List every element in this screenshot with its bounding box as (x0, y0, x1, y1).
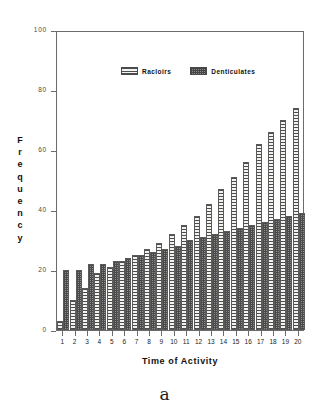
x-axis-tick-mark (161, 331, 162, 336)
x-axis-tick-mark (261, 331, 262, 336)
x-axis-tick-mark (99, 331, 100, 336)
x-axis-tick-mark (174, 331, 175, 336)
bar-group (218, 32, 230, 330)
x-axis-tick-mark (112, 331, 113, 336)
x-axis-tick-mark (298, 331, 299, 336)
x-axis-tick-mark (62, 331, 63, 336)
bar-group (268, 32, 280, 330)
bar-denticulates (113, 261, 119, 330)
y-axis-tick-label: 100 (34, 26, 47, 33)
bar-denticulates (175, 246, 181, 330)
x-axis-tick-mark (285, 331, 286, 336)
bar-denticulates (76, 270, 82, 330)
y-axis-tick-label: 60 (38, 146, 47, 153)
x-axis-tick-mark (211, 331, 212, 336)
x-axis-tick-label: 20 (289, 338, 307, 345)
bar-denticulates (63, 270, 69, 330)
bar-group (156, 32, 168, 330)
bar-group (169, 32, 181, 330)
bar-group (94, 32, 106, 330)
bar-denticulates (200, 237, 206, 330)
bar-group (82, 32, 94, 330)
bar-group (280, 32, 292, 330)
figure-bar-chart: Frequency 020406080100 Racloirs Denticul… (0, 0, 329, 418)
bar-denticulates (125, 258, 131, 330)
bar-denticulates (187, 240, 193, 330)
bar-denticulates (274, 219, 280, 330)
bar-denticulates (262, 222, 268, 330)
x-axis: 1234567891011121314151617181920 (56, 331, 304, 357)
x-axis-tick-mark (75, 331, 76, 336)
bar-denticulates (150, 252, 156, 330)
x-axis-tick-mark (236, 331, 237, 336)
legend-label-racloirs: Racloirs (142, 68, 171, 75)
legend-item-denticulates: Denticulates (190, 67, 255, 75)
bar-group (144, 32, 156, 330)
bar-denticulates (249, 225, 255, 330)
bar-denticulates (237, 228, 243, 330)
legend: Racloirs Denticulates (121, 67, 255, 75)
bar-group (293, 32, 305, 330)
bar-group (57, 32, 69, 330)
y-axis: 020406080100 (0, 0, 56, 331)
bar-group (256, 32, 268, 330)
bar-denticulates (88, 264, 94, 330)
bar-group (70, 32, 82, 330)
bar-group (194, 32, 206, 330)
legend-label-denticulates: Denticulates (211, 68, 255, 75)
bar-group (119, 32, 131, 330)
y-axis-tick-label: 80 (38, 86, 47, 93)
bar-group (231, 32, 243, 330)
bar-denticulates (162, 249, 168, 330)
bar-denticulates (212, 234, 218, 330)
x-axis-tick-mark (186, 331, 187, 336)
x-axis-tick-mark (199, 331, 200, 336)
x-axis-tick-mark (248, 331, 249, 336)
legend-swatch-racloirs (121, 67, 138, 75)
x-axis-tick-mark (273, 331, 274, 336)
bar-denticulates (286, 216, 292, 330)
bar-denticulates (100, 264, 106, 330)
figure-caption: a (0, 384, 329, 404)
bar-group (132, 32, 144, 330)
bar-group (243, 32, 255, 330)
y-axis-tick-label: 20 (38, 266, 47, 273)
legend-swatch-denticulates (190, 67, 207, 75)
y-axis-tick-label: 40 (38, 206, 47, 213)
y-axis-tick-label: 0 (43, 326, 47, 333)
x-axis-title: Time of Activity (56, 356, 304, 366)
bar-group (107, 32, 119, 330)
legend-item-racloirs: Racloirs (121, 67, 171, 75)
x-axis-tick-mark (149, 331, 150, 336)
x-axis-tick-mark (87, 331, 88, 336)
plot-area: Racloirs Denticulates (56, 31, 304, 331)
x-axis-tick-mark (223, 331, 224, 336)
bar-denticulates (299, 213, 305, 330)
bar-series-container (57, 32, 303, 330)
x-axis-tick-mark (137, 331, 138, 336)
bar-group (181, 32, 193, 330)
bar-denticulates (224, 231, 230, 330)
bar-group (206, 32, 218, 330)
x-axis-tick-mark (124, 331, 125, 336)
bar-denticulates (138, 255, 144, 330)
